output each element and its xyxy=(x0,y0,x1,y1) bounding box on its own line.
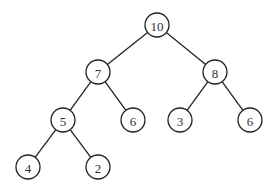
tree-edge-7-to-5 xyxy=(70,82,91,111)
node-label: 4 xyxy=(25,161,32,176)
node-label: 7 xyxy=(95,66,102,81)
tree-edge-8-to-3 xyxy=(187,82,208,111)
tree-node: 10 xyxy=(145,13,169,37)
tree-node: 3 xyxy=(168,108,192,132)
tree-node: 6 xyxy=(238,108,262,132)
tree-edge-8-to-6 xyxy=(222,82,243,111)
tree-node: 4 xyxy=(16,155,40,179)
node-label: 6 xyxy=(247,114,254,129)
node-label: 2 xyxy=(95,161,102,176)
tree-edge-5-to-2 xyxy=(70,130,91,158)
node-label: 10 xyxy=(151,19,164,34)
tree-node: 8 xyxy=(203,60,227,84)
node-label: 5 xyxy=(60,114,67,129)
node-label: 3 xyxy=(177,114,184,129)
tree-node: 5 xyxy=(51,108,75,132)
tree-edge-10-to-7 xyxy=(107,32,147,64)
nodes-layer: 1078563642 xyxy=(16,13,262,179)
node-label: 8 xyxy=(212,66,219,81)
tree-node: 6 xyxy=(121,108,145,132)
tree-edge-5-to-4 xyxy=(35,130,56,158)
node-label: 6 xyxy=(130,114,137,129)
tree-node: 2 xyxy=(86,155,110,179)
tree-edge-7-to-6 xyxy=(105,82,126,111)
tree-node: 7 xyxy=(86,60,110,84)
binary-tree-diagram: 1078563642 xyxy=(0,0,277,192)
tree-edge-10-to-8 xyxy=(166,33,205,65)
edges-layer xyxy=(35,32,243,157)
